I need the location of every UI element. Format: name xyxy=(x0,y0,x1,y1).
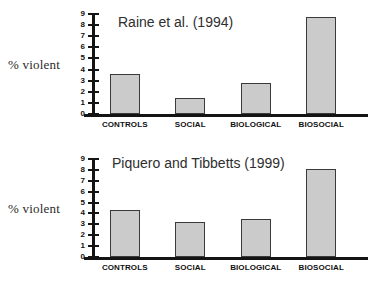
y-axis-tick-label: 8 xyxy=(81,21,85,29)
y-axis-tick-label: 4 xyxy=(81,66,85,74)
bar xyxy=(306,17,336,114)
x-axis-category-labels: CONTROLSSOCIALBIOLOGICALBIOSOCIAL xyxy=(92,120,354,134)
x-axis-category-label: BIOLOGICAL xyxy=(230,263,281,272)
bar xyxy=(241,219,271,257)
x-axis-category-labels: CONTROLSSOCIALBIOLOGICALBIOSOCIAL xyxy=(92,263,354,277)
y-axis-tick-label: 0 xyxy=(81,253,85,261)
y-axis-tick-label: 5 xyxy=(81,199,85,207)
plot-area: 0123456789 xyxy=(92,159,354,257)
x-axis-category-label: BIOSOCIAL xyxy=(299,120,344,129)
y-axis-tick-label: 6 xyxy=(81,188,85,196)
bar xyxy=(175,222,205,257)
bar-series xyxy=(92,159,354,257)
plot-area: 0123456789 xyxy=(92,14,354,114)
x-axis-category-label: BIOSOCIAL xyxy=(299,263,344,272)
y-axis-tick-label: 2 xyxy=(81,88,85,96)
x-axis-category-label: CONTROLS xyxy=(102,120,148,129)
y-axis-tick-label: 1 xyxy=(81,242,85,250)
y-axis-tick-label: 5 xyxy=(81,54,85,62)
y-axis-tick-label: 3 xyxy=(81,77,85,85)
bar xyxy=(306,169,336,257)
x-axis-category-label: CONTROLS xyxy=(102,263,148,272)
bar-series xyxy=(92,14,354,114)
bar xyxy=(110,74,140,114)
y-axis-tick-label: 1 xyxy=(81,99,85,107)
y-axis-tick-label: 3 xyxy=(81,220,85,228)
y-axis-title: % violent xyxy=(8,201,60,217)
bar xyxy=(110,210,140,257)
x-axis-line xyxy=(84,114,368,117)
x-axis-category-label: BIOLOGICAL xyxy=(230,120,281,129)
y-axis-title: % violent xyxy=(8,57,60,73)
y-axis-tick-label: 8 xyxy=(81,166,85,174)
y-axis-tick-label: 7 xyxy=(81,32,85,40)
x-axis-category-label: SOCIAL xyxy=(175,263,206,272)
y-axis-tick-label: 0 xyxy=(81,110,85,118)
x-axis-line xyxy=(84,257,368,260)
y-axis-tick-label: 2 xyxy=(81,231,85,239)
y-axis-tick-label: 6 xyxy=(81,43,85,51)
chart-panel-raine: % violent Raine et al. (1994) 0123456789… xyxy=(0,0,370,142)
x-axis-category-label: SOCIAL xyxy=(175,120,206,129)
y-axis-tick-label: 4 xyxy=(81,209,85,217)
y-axis-tick-label: 9 xyxy=(81,155,85,163)
chart-panel-piquero: % violent Piquero and Tibbetts (1999) 01… xyxy=(0,145,370,285)
figure: % violent Raine et al. (1994) 0123456789… xyxy=(0,0,370,285)
bar xyxy=(241,83,271,114)
y-axis-tick-label: 7 xyxy=(81,177,85,185)
bar xyxy=(175,98,205,114)
y-axis-tick-label: 9 xyxy=(81,10,85,18)
